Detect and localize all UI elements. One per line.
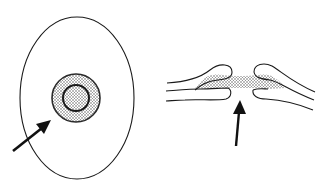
diagram-canvas <box>0 0 324 187</box>
left-panel-surface-view <box>13 17 134 179</box>
arrow-icon <box>233 100 246 146</box>
inner-ring <box>63 85 89 111</box>
right-panel-cross-section <box>166 64 315 146</box>
arrow-icon <box>13 120 51 151</box>
